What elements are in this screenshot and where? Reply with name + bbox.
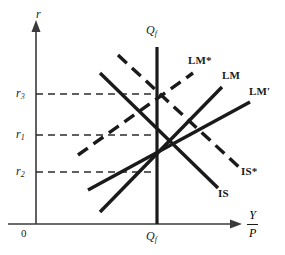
curve-label-lm: LM [222,70,240,81]
diagram-canvas [0,0,285,255]
y-axis-label: r [36,8,41,20]
curve-label-lm-star: LM* [188,55,212,66]
rate-guide-lines [36,94,157,172]
is-lm-diagram: r r3 r1 r2 0 Qf Qf LM* LM LM′ IS* IS Y P [0,0,285,255]
y-tick-label-r2: r2 [16,165,25,179]
curve-label-is: IS [218,188,229,199]
y-tick-label-r3: r3 [16,87,25,101]
x-axis-label-denominator: P [247,226,258,241]
y-axis [32,20,41,224]
qf-label-top: Qf [146,24,157,38]
curve-lm-prime [88,102,250,190]
x-axis [8,220,242,229]
curve-label-is-star: IS* [241,166,258,177]
qf-label-bottom: Qf [146,230,157,244]
fraction-bar [247,224,258,225]
x-axis-label: Y P [247,208,258,241]
origin-label: 0 [21,228,27,239]
y-tick-label-r1: r1 [16,128,25,142]
x-axis-label-numerator: Y [247,208,258,223]
curve-label-lm-prime: LM′ [249,86,270,97]
